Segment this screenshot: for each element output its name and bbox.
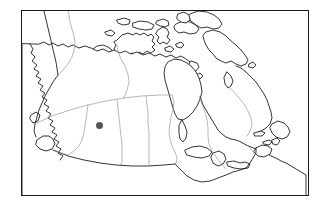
mainland-canada-coast: [22, 42, 306, 196]
newfoundland-coast: [270, 121, 290, 139]
arctic-islet-c-coast: [176, 42, 184, 48]
melville-island-coast: [133, 21, 154, 30]
arctic-islet-b-coast: [165, 46, 174, 52]
anticosti-island-coast: [254, 131, 265, 136]
quebec-labrador-border: [229, 87, 252, 136]
axel-heiberg-island-coast: [177, 12, 190, 23]
arctic-islet-a-coast: [105, 30, 115, 36]
bathurst-island-coast: [156, 19, 169, 27]
baffin-island-coast: [203, 30, 248, 66]
resolution-island-coast: [249, 62, 256, 68]
map-figure: [0, 0, 332, 209]
prince-of-wales-island-coast: [156, 27, 170, 44]
location-marker[interactable]: [96, 122, 103, 129]
labrador-coast: [236, 66, 272, 133]
ungava-bay-shore: [224, 72, 233, 88]
cape-breton-island-coast: [272, 138, 280, 145]
prince-patrick-island-coast: [117, 18, 130, 25]
prince-edward-island-coast: [263, 140, 272, 145]
canada-map-svg: [0, 0, 332, 209]
